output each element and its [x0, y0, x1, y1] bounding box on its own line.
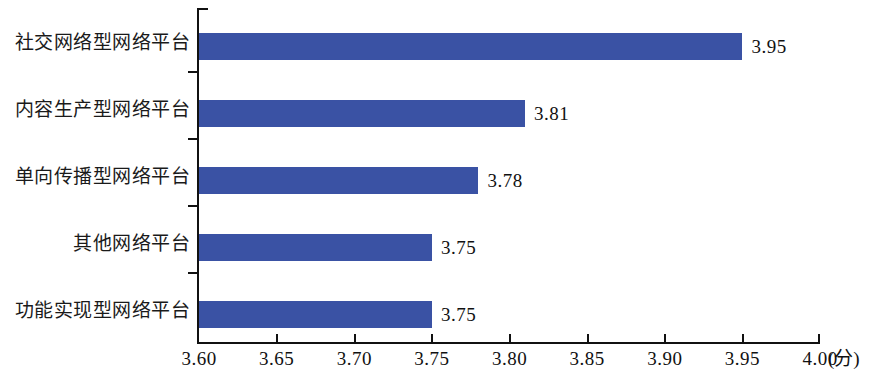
category-label-2: 单向传播型网络平台 [15, 167, 191, 186]
category-label-0: 社交网络型网络平台 [15, 33, 191, 52]
bar-0 [199, 33, 742, 60]
y-axis-top-tick [197, 8, 208, 10]
x-tick-label-6: 3.90 [647, 349, 682, 368]
x-tick-label-3: 3.75 [414, 349, 449, 368]
bar-value-2: 3.78 [487, 171, 522, 190]
bar-value-3: 3.75 [441, 238, 476, 257]
bar-1 [199, 100, 525, 127]
x-tick-label-7: 3.95 [725, 349, 760, 368]
category-label-1: 内容生产型网络平台 [15, 100, 191, 119]
x-axis-tick [431, 334, 433, 344]
x-axis-tick [587, 334, 589, 344]
x-axis-tick [664, 334, 666, 344]
x-tick-label-2: 3.70 [337, 349, 372, 368]
x-axis-tick [509, 334, 511, 344]
x-axis-tick [742, 334, 744, 344]
x-axis-tick [276, 334, 278, 344]
bar-value-0: 3.95 [751, 37, 786, 56]
bar-2 [199, 167, 478, 194]
x-axis-end-tick [818, 334, 820, 344]
bar-value-1: 3.81 [534, 104, 569, 123]
x-axis-unit-label: (分) [828, 349, 860, 368]
x-tick-label-4: 3.80 [492, 349, 527, 368]
bar-4 [199, 301, 432, 328]
x-tick-label-0: 3.60 [181, 349, 216, 368]
x-tick-label-5: 3.85 [570, 349, 605, 368]
bar-3 [199, 234, 432, 261]
y-axis-tick [188, 272, 199, 274]
y-axis-tick [188, 138, 199, 140]
category-label-4: 功能实现型网络平台 [15, 301, 191, 320]
plot-area: 3.95 3.81 3.78 3.75 3.75 3.60 3.65 3.70 … [199, 8, 820, 342]
bar-value-4: 3.75 [441, 305, 476, 324]
category-label-3: 其他网络平台 [73, 234, 190, 253]
x-axis-tick [354, 334, 356, 344]
x-tick-label-1: 3.65 [259, 349, 294, 368]
horizontal-bar-chart: 社交网络型网络平台 内容生产型网络平台 单向传播型网络平台 其他网络平台 功能实… [0, 0, 888, 378]
y-axis-tick [188, 205, 199, 207]
y-axis-tick [188, 71, 199, 73]
